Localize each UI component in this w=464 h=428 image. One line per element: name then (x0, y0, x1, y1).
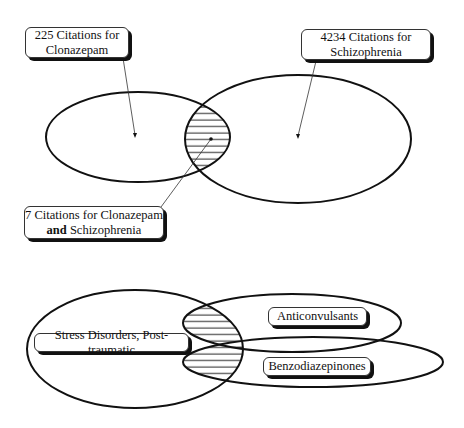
clonazepam-pointer-arrowhead (133, 133, 137, 138)
stress-disorders-label-text: Stress Disorders, Post-traumatic (35, 328, 188, 358)
intersection-dot (209, 137, 213, 141)
schizophrenia-label-line1: 4234 Citations for (321, 30, 412, 45)
intersection-label-and: and (47, 223, 67, 237)
anticonvulsants-label: Anticonvulsants (268, 307, 367, 326)
intersection-label-line1: 7 Citations for Clonazepam (25, 208, 163, 223)
benzodiazepinones-label: Benzodiazepinones (263, 357, 371, 376)
schizophrenia-label-line2: Schizophrenia (330, 45, 402, 60)
schizophrenia-pointer-arrowhead (296, 134, 300, 139)
stress-disorders-label: Stress Disorders, Post-traumatic (34, 333, 189, 352)
intersection-label-line2: and Schizophrenia (47, 223, 142, 238)
intersection-label-rest: Schizophrenia (67, 223, 142, 237)
clonazepam-label-line1: 225 Citations for (35, 28, 120, 43)
clonazepam-pointer (123, 58, 135, 135)
anticonvulsants-label-text: Anticonvulsants (277, 309, 358, 324)
clonazepam-label: 225 Citations for Clonazepam (25, 27, 129, 58)
intersection-label: 7 Citations for Clonazepam and Schizophr… (24, 206, 164, 239)
benzodiazepinones-label-text: Benzodiazepinones (268, 359, 365, 374)
schizophrenia-pointer (298, 61, 316, 136)
clonazepam-label-line2: Clonazepam (46, 43, 108, 58)
schizophrenia-label: 4234 Citations for Schizophrenia (301, 29, 431, 60)
